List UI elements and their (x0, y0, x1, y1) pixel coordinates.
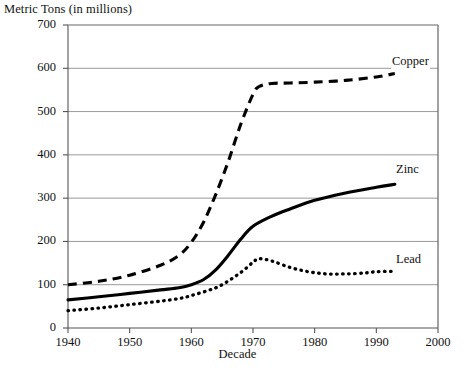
y-tick-label: 0 (16, 320, 56, 335)
y-tick-label: 100 (16, 277, 56, 292)
gridlines-group (68, 25, 438, 285)
chart-figure: Metric Tons (in millions) 70060050040030… (0, 0, 475, 380)
x-tick-marks-group (68, 328, 438, 333)
y-tick-label: 300 (16, 190, 56, 205)
series-label-copper: Copper (391, 54, 430, 69)
x-axis-title: Decade (0, 347, 475, 362)
y-tick-label: 700 (16, 17, 56, 32)
series-label-zinc: Zinc (395, 162, 420, 177)
data-series-group (68, 73, 395, 310)
series-line-zinc (68, 184, 395, 300)
y-tick-label: 200 (16, 233, 56, 248)
y-tick-label: 600 (16, 60, 56, 75)
y-tick-label: 400 (16, 147, 56, 162)
axis-lines-group (68, 25, 438, 328)
y-tick-label: 500 (16, 104, 56, 119)
y-tick-marks-group (63, 25, 68, 328)
series-label-lead: Lead (395, 252, 422, 267)
